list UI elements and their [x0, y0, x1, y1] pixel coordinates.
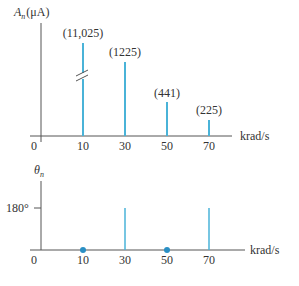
phase-tick-50: 50	[161, 253, 173, 267]
spectrum-figure: An(μA) krad/s (11,025) (1225) (441) (225…	[0, 0, 299, 286]
amplitude-tick-70: 70	[203, 139, 215, 153]
phase-x-unit: krad/s	[250, 243, 280, 257]
amplitude-tick-50: 50	[161, 139, 173, 153]
phase-origin-label: 0	[31, 253, 37, 267]
amplitude-label-30: (1225)	[109, 45, 141, 59]
amplitude-label-70: (225)	[196, 103, 222, 117]
phase-tick-70: 70	[203, 253, 215, 267]
phase-tick-180-label: 180°	[6, 201, 29, 215]
phase-tick-10: 10	[77, 253, 89, 267]
amplitude-tick-30: 30	[119, 139, 131, 153]
amplitude-label-50: (441)	[154, 86, 180, 100]
phase-axis-label: θn	[34, 163, 44, 179]
amplitude-x-unit: krad/s	[240, 129, 270, 143]
amplitude-tick-10: 10	[77, 139, 89, 153]
amplitude-chart: An(μA) krad/s (11,025) (1225) (441) (225…	[13, 5, 270, 153]
phase-tick-30: 30	[119, 253, 131, 267]
amplitude-label-10: (11,025)	[63, 26, 104, 40]
amplitude-origin-label: 0	[31, 139, 37, 153]
amplitude-axis-label: An(μA)	[13, 5, 49, 21]
phase-chart: θn 180° krad/s 0 10 30 50 70	[6, 163, 280, 267]
